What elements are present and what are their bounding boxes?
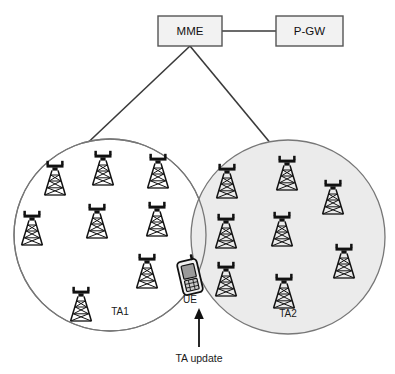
ue-label: UE [183,294,197,305]
node-pgw-label: P-GW [294,25,325,37]
ta-update-label: TA update [175,352,222,364]
ta-update-arrow [194,308,204,347]
node-mme[interactable]: MME [158,16,222,46]
node-mme-label: MME [177,25,204,37]
node-pgw[interactable]: P-GW [276,16,343,46]
diagram-canvas: TA1 TA2 UE TA update MME P-GW [0,0,395,374]
link-mme-to-ta2 [190,46,272,145]
link-mme-to-ta1 [78,46,190,152]
tracking-area-ta1[interactable] [14,139,206,331]
tracking-area-label-ta1: TA1 [111,306,129,317]
tracking-area-label-ta2: TA2 [279,308,297,319]
network-topology-diagram: TA1 TA2 UE TA update MME P-GW [0,0,395,374]
